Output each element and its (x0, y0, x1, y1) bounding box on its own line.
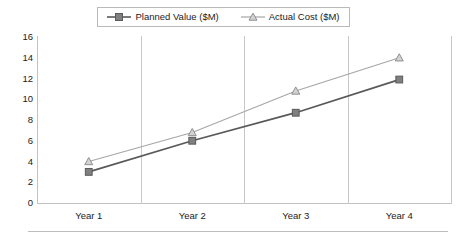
legend-marker-square-icon (107, 12, 131, 22)
legend-marker-triangle-icon (241, 12, 265, 22)
chart-gridline (451, 36, 452, 204)
legend-item-planned-value[interactable]: Planned Value ($M) (107, 12, 218, 22)
y-axis-tick-label: 14 (3, 53, 33, 63)
data-point-marker-triangle (395, 54, 403, 61)
chart-legend: Planned Value ($M) Actual Cost ($M) (97, 7, 350, 27)
data-point-marker-square (396, 76, 403, 83)
data-point-marker-square (85, 168, 92, 175)
x-axis-category-label: Year 1 (37, 209, 141, 225)
y-axis-tick-label: 6 (3, 136, 33, 146)
line-chart: Planned Value ($M) Actual Cost ($M) 0246… (0, 0, 457, 240)
plot-area (37, 37, 451, 203)
series-line (89, 58, 400, 162)
data-point-marker-triangle (188, 128, 196, 135)
data-point-marker-square (292, 109, 299, 116)
y-axis-tick-label: 2 (3, 178, 33, 188)
y-axis-tick-label: 12 (3, 74, 33, 84)
y-axis-tick-labels: 0246810121416 (0, 0, 33, 240)
data-point-marker-square (189, 137, 196, 144)
series-line (89, 80, 400, 172)
x-axis-category-label: Year 2 (141, 209, 245, 225)
legend-label-planned-value: Planned Value ($M) (135, 12, 218, 22)
y-axis-tick-label: 0 (3, 198, 33, 208)
series-lines (37, 37, 451, 203)
x-axis-category-labels: Year 1Year 2Year 3Year 4 (37, 209, 451, 225)
y-axis-tick-label: 10 (3, 95, 33, 105)
legend-label-actual-cost: Actual Cost ($M) (269, 12, 340, 22)
y-axis-tick-label: 8 (3, 115, 33, 125)
bottom-divider (28, 231, 448, 232)
x-axis-category-label: Year 4 (348, 209, 452, 225)
y-axis-tick-label: 16 (3, 32, 33, 42)
legend-item-actual-cost[interactable]: Actual Cost ($M) (241, 12, 340, 22)
x-axis-category-label: Year 3 (244, 209, 348, 225)
y-axis-tick-label: 4 (3, 157, 33, 167)
